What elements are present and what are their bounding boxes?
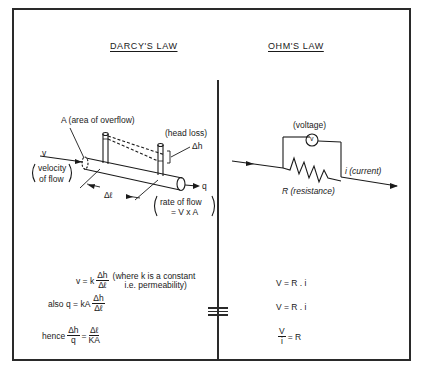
denominator: Δℓ: [98, 281, 106, 290]
fraction: Δh Δℓ: [96, 271, 108, 290]
voltage-label: (voltage): [293, 120, 326, 130]
eq1-note: (where k is a constant i.e. permeability…: [113, 272, 196, 290]
equivalence-icon: [208, 307, 228, 318]
fraction: Δℓ KA: [89, 326, 100, 345]
eq2-prefix: also: [48, 299, 64, 309]
flow-symbol: q: [202, 181, 207, 191]
denominator: i: [281, 337, 283, 346]
darcy-equation-3: hence Δh q = Δℓ KA: [42, 326, 102, 345]
voltmeter-symbol: v: [310, 135, 314, 142]
velocity-symbol: v: [42, 148, 46, 158]
flow-desc-1: rate of flow: [160, 197, 202, 207]
denominator: q: [71, 336, 76, 345]
ohm-equation-2: V = R . i: [276, 302, 306, 312]
velocity-desc-2: of flow: [39, 174, 64, 184]
fraction: V i: [278, 327, 286, 346]
equals: =: [82, 331, 87, 341]
eq1-note-2: i.e. permeability): [125, 281, 196, 290]
fraction: Δh q: [67, 326, 79, 345]
velocity-desc-1: velocity: [38, 163, 66, 173]
resistance-label: R (resistance): [282, 186, 335, 196]
area-label: A (area of overflow): [61, 115, 135, 125]
resistor-circuit-icon: [232, 134, 397, 186]
denominator: Δℓ: [94, 304, 102, 313]
fraction: Δh Δℓ: [92, 294, 104, 313]
eq1-lhs: v = k: [76, 276, 94, 286]
eq3-prefix: hence: [42, 331, 65, 341]
ohm-equation-1: V = R . i: [276, 278, 306, 288]
head-loss-label: (head loss): [165, 128, 207, 138]
flow-desc-2: = V x A: [171, 207, 198, 217]
denominator: KA: [89, 336, 100, 345]
delta-l-label: Δℓ: [104, 190, 112, 200]
delta-h-label: Δh: [192, 141, 202, 151]
eq3-rhs: = R: [288, 332, 301, 342]
darcy-equation-2: also q = kA Δh Δℓ: [48, 294, 107, 313]
current-label: i (current): [345, 166, 381, 176]
darcy-equation-1: v = k Δh Δℓ (where k is a constant i.e. …: [76, 271, 195, 290]
eq2-lhs: q = kA: [66, 299, 90, 309]
ohm-equation-3: V i = R: [276, 327, 301, 346]
